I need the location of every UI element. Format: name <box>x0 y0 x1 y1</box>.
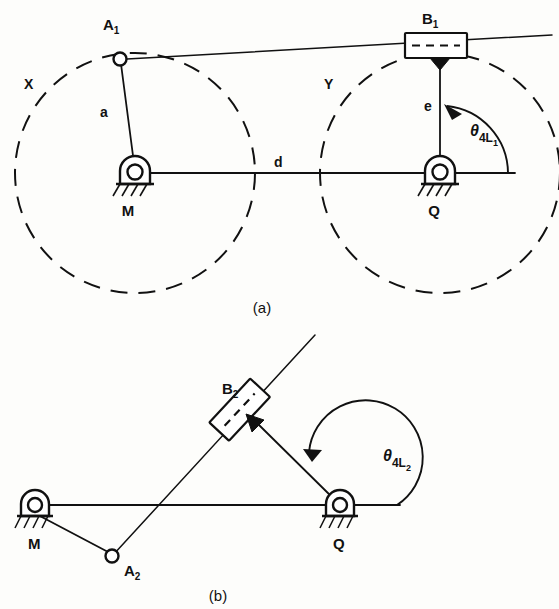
label-b1: B1 <box>422 10 439 30</box>
link-b2-q <box>259 425 337 502</box>
label-pivot-q-b: Q <box>333 535 345 552</box>
figure-canvas: A1 B1 a e d X Y θ4L1 (a) <box>0 0 559 609</box>
label-theta-4l1: θ4L1 <box>470 122 498 148</box>
link-m-a2 <box>38 515 110 553</box>
label-link-a: a <box>100 104 108 120</box>
label-pivot-q-a: Q <box>428 202 440 219</box>
joint-a1 <box>114 53 127 66</box>
label-a2: A2 <box>124 562 141 582</box>
ground-pivot-q-a <box>418 156 459 196</box>
angle-arc-theta4L2 <box>309 400 423 505</box>
label-b2: B2 <box>222 380 239 400</box>
label-dim-d: d <box>274 154 283 170</box>
ground-pivot-q-b <box>320 490 358 528</box>
joint-a2 <box>106 550 119 563</box>
caption-panel-b: (b) <box>209 587 227 604</box>
slider-block-b1 <box>405 33 467 70</box>
coupler-line-a2-b2 <box>113 335 315 555</box>
label-pivot-m-a: M <box>122 202 135 219</box>
panel-b: B2 A2 M Q θ4L2 (b) <box>15 335 423 604</box>
block-b1-connector <box>430 58 450 70</box>
ground-pivot-m-b <box>15 490 53 528</box>
label-link-e: e <box>424 98 432 114</box>
label-circle-x: X <box>24 76 34 92</box>
slider-block-b2 <box>209 379 270 441</box>
ground-pivot-m-a <box>113 156 154 196</box>
caption-panel-a: (a) <box>253 299 271 316</box>
label-theta-4l2: θ4L2 <box>383 447 411 473</box>
label-a1: A1 <box>103 16 120 36</box>
angle-arrowhead-b <box>303 449 322 462</box>
coupler-line-a1-b1 <box>127 35 552 59</box>
block-b2-connector <box>246 414 264 432</box>
mechanism-figure: A1 B1 a e d X Y θ4L1 (a) <box>0 0 559 609</box>
label-pivot-m-b: M <box>28 535 41 552</box>
label-circle-y: Y <box>324 76 334 92</box>
panel-a: A1 B1 a e d X Y θ4L1 (a) <box>15 10 559 316</box>
